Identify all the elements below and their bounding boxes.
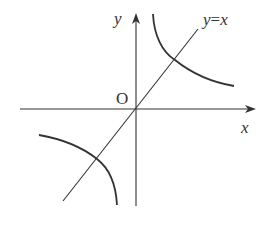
origin-label: O xyxy=(116,89,128,108)
line-label-lhs: y xyxy=(201,10,211,29)
x-axis-label: x xyxy=(240,118,249,137)
line-label: y=x xyxy=(201,10,228,29)
y-axis-label: y xyxy=(112,9,122,28)
line-y-equals-x xyxy=(63,29,198,201)
coordinate-diagram: y y=x O x xyxy=(0,0,270,231)
hyperbola-branch-lower xyxy=(39,135,117,205)
line-label-rhs: x xyxy=(219,10,228,29)
line-label-eq: = xyxy=(211,10,221,29)
